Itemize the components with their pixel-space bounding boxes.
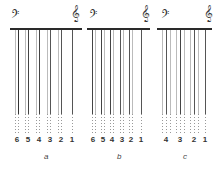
string-dots (162, 114, 163, 134)
string-line (198, 30, 199, 114)
course-number: 2 (190, 135, 198, 144)
panel-label: c (183, 152, 187, 161)
course-number: 1 (201, 135, 209, 144)
course-number: 4 (162, 135, 170, 144)
string-dots (180, 114, 181, 134)
string-dots (194, 114, 195, 134)
string-line (166, 30, 167, 114)
panel-c: 𝄢 𝄞 4 3 2 1 c (0, 0, 220, 170)
string-dots (205, 114, 206, 134)
treble-clef-icon: 𝄞 (204, 6, 213, 21)
string-dots (170, 114, 171, 134)
string-dots (166, 114, 167, 134)
string-line (162, 30, 163, 114)
course-number: 3 (176, 135, 184, 144)
string-line (205, 30, 206, 114)
string-line (176, 30, 177, 114)
string-line (170, 30, 171, 114)
bass-clef-icon: 𝄢 (161, 9, 169, 22)
string-line (180, 30, 181, 114)
string-dots (184, 114, 185, 134)
string-dots (190, 114, 191, 134)
string-dots (176, 114, 177, 134)
string-line (190, 30, 191, 114)
string-line (184, 30, 185, 114)
string-line (194, 30, 195, 114)
string-dots (198, 114, 199, 134)
